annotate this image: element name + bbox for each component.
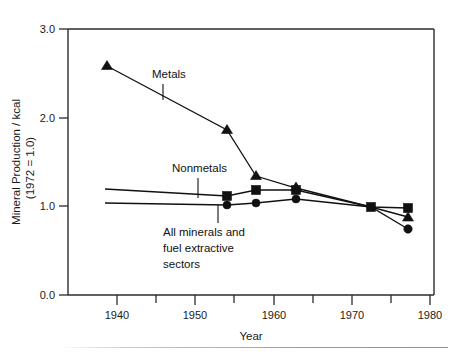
annotation-all-minerals-line1: All minerals and xyxy=(163,226,245,238)
data-point-marker xyxy=(252,199,260,207)
annotation-all-minerals-line3: sectors xyxy=(163,258,200,270)
x-tick-label-1980: 1980 xyxy=(418,309,442,321)
y-axis-ticks xyxy=(59,29,68,295)
x-tick-label-1940: 1940 xyxy=(105,309,129,321)
mineral-production-line-chart: 3.0 2.0 1.0 0.0 1940 1950 1960 1970 1980 xyxy=(0,0,466,357)
y-tick-label-0: 0.0 xyxy=(40,289,55,301)
y-tick-label-2: 2.0 xyxy=(40,112,55,124)
x-tick-label-1950: 1950 xyxy=(183,309,207,321)
data-point-marker xyxy=(223,192,232,201)
data-point-marker xyxy=(292,195,300,203)
x-axis-tick-labels: 1940 1950 1960 1970 1980 xyxy=(105,309,442,321)
plot-area-background xyxy=(68,29,434,295)
x-tick-label-1970: 1970 xyxy=(340,309,364,321)
y-axis-tick-labels: 3.0 2.0 1.0 0.0 xyxy=(40,23,55,301)
y-axis-title: Mineral Production / kcal xyxy=(10,99,22,225)
y-axis-title-secondary: (1972 = 1.0) xyxy=(24,137,36,200)
y-tick-label-1: 1.0 xyxy=(40,200,55,212)
annotation-nonmetals-label: Nonmetals xyxy=(172,162,227,174)
chart-figure: 3.0 2.0 1.0 0.0 1940 1950 1960 1970 1980 xyxy=(0,0,466,357)
x-axis-ticks xyxy=(117,295,430,305)
footer-divider xyxy=(58,347,448,348)
data-point-marker xyxy=(404,204,413,213)
data-point-marker xyxy=(252,186,261,195)
x-axis-title: Year xyxy=(239,330,262,342)
data-point-marker xyxy=(404,225,412,233)
data-point-marker xyxy=(223,201,231,209)
x-tick-label-1960: 1960 xyxy=(262,309,286,321)
annotation-all-minerals-line2: fuel extractive xyxy=(163,242,234,254)
annotation-metals-label: Metals xyxy=(152,68,186,80)
y-tick-label-3: 3.0 xyxy=(40,23,55,35)
